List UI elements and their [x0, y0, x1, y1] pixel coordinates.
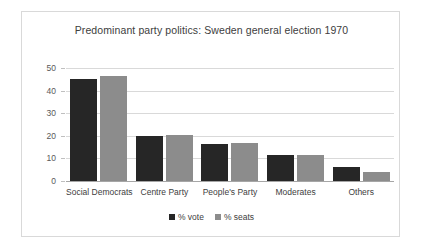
- chart-legend: % vote% seats: [22, 212, 401, 222]
- y-axis-tick-mark: [61, 68, 65, 69]
- y-axis-tick-mark: [61, 136, 65, 137]
- x-axis-category-label: Social Democrats: [66, 188, 132, 197]
- bar-group: [197, 68, 263, 181]
- bar-group: [263, 68, 329, 181]
- bar[interactable]: [201, 144, 228, 181]
- y-axis-tick-label: 0: [30, 177, 56, 186]
- bar-group: [328, 68, 394, 181]
- bar[interactable]: [231, 143, 258, 181]
- bar-group: [132, 68, 198, 181]
- bar-group: [66, 68, 132, 181]
- y-axis-tick-label: 20: [30, 132, 56, 141]
- y-axis-tick-label: 40: [30, 87, 56, 96]
- bar[interactable]: [333, 167, 360, 181]
- bar[interactable]: [136, 136, 163, 181]
- chart-title: Predominant party politics: Sweden gener…: [22, 24, 401, 36]
- y-axis-tick-label: 50: [30, 64, 56, 73]
- legend-item[interactable]: % seats: [215, 212, 254, 222]
- bar[interactable]: [166, 135, 193, 181]
- y-axis-tick-label: 10: [30, 154, 56, 163]
- x-axis-category-label: People's Party: [197, 188, 263, 197]
- chart-container: Predominant party politics: Sweden gener…: [21, 11, 400, 237]
- y-axis-tick-mark: [61, 91, 65, 92]
- legend-item[interactable]: % vote: [169, 212, 204, 222]
- legend-label: % seats: [224, 212, 254, 222]
- y-axis-tick-mark: [61, 181, 65, 182]
- x-axis-category-label: Moderates: [263, 188, 329, 197]
- y-axis-tick-mark: [61, 158, 65, 159]
- bar[interactable]: [100, 76, 127, 181]
- x-axis-category-label: Centre Party: [132, 188, 198, 197]
- x-axis-line: [66, 181, 394, 182]
- legend-label: % vote: [178, 212, 204, 222]
- bar[interactable]: [363, 172, 390, 181]
- bar[interactable]: [267, 155, 294, 181]
- x-axis-category-label: Others: [328, 188, 394, 197]
- plot-area: [66, 68, 394, 181]
- y-axis-tick-mark: [61, 113, 65, 114]
- bar[interactable]: [297, 155, 324, 181]
- bar[interactable]: [70, 79, 97, 181]
- y-axis-tick-label: 30: [30, 109, 56, 118]
- legend-swatch-icon: [169, 214, 175, 220]
- legend-swatch-icon: [215, 214, 221, 220]
